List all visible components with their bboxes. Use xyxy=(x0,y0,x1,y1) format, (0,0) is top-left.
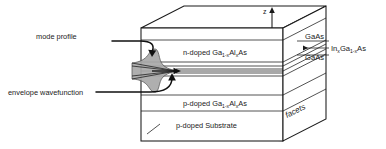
side-label-gaas-upper: GaAs xyxy=(305,32,324,41)
figure-container: z n-doped Ga1-xAlxAs p-doped Ga1-xAlxAs … xyxy=(0,0,386,149)
svg-text:p-doped Ga1-xAlxAs: p-doped Ga1-xAlxAs xyxy=(183,99,247,109)
callout-label-mode-profile: mode profile xyxy=(36,32,77,41)
laser-structure-diagram: z n-doped Ga1-xAlxAs p-doped Ga1-xAlxAs … xyxy=(0,0,386,149)
ingaas-suffix: As xyxy=(357,44,366,53)
svg-text:n-doped Ga1-xAlxAs: n-doped Ga1-xAlxAs xyxy=(183,48,247,58)
right-side-face xyxy=(283,6,326,141)
layer-label-p-cladding: p-doped Ga1-xAlxAs xyxy=(183,99,247,109)
z-axis-label: z xyxy=(263,8,267,15)
n-clad-prefix: n-doped Ga xyxy=(183,48,223,57)
layer-label-substrate: p-doped Substrate xyxy=(176,121,237,130)
side-label-gaas-lower: GaAs xyxy=(305,53,324,62)
p-clad-prefix: p-doped Ga xyxy=(183,99,223,108)
n-clad-suffix: As xyxy=(238,48,247,57)
side-label-ingaas: InxGa1-xAs xyxy=(331,44,366,54)
callout-label-envelope-wavefunction: envelope wavefunction xyxy=(8,88,83,97)
layer-label-n-cladding: n-doped Ga1-xAlxAs xyxy=(183,48,247,58)
p-clad-suffix: As xyxy=(238,99,247,108)
